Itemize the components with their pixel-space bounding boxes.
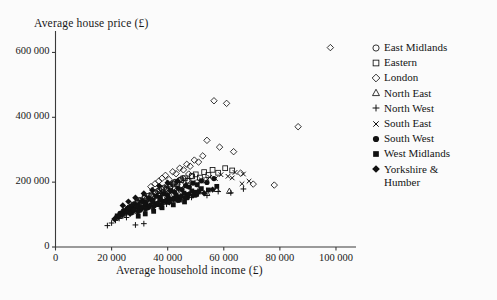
legend-item-north-west[interactable]: North West <box>368 101 494 116</box>
legend-label: Eastern <box>384 55 417 69</box>
data-point-filled-diamond <box>372 165 380 173</box>
data-point-open-diamond <box>271 182 277 188</box>
data-point-plus <box>373 105 380 112</box>
legend-marker-open-diamond-icon <box>368 70 384 85</box>
data-point-open-diamond <box>191 157 197 163</box>
data-point-open-diamond <box>204 137 210 143</box>
data-point-filled-square <box>143 212 148 217</box>
legend-item-east-midlands[interactable]: East Midlands <box>368 40 494 55</box>
legend-marker-cross-icon <box>368 116 384 131</box>
legend-label: East Midlands <box>384 40 447 54</box>
legend-item-london[interactable]: London <box>368 70 494 85</box>
data-point-filled-circle <box>373 136 379 142</box>
data-point-cross <box>230 176 235 181</box>
data-point-filled-square <box>214 184 219 189</box>
data-point-plus <box>215 189 221 195</box>
legend-label: North East <box>384 86 431 100</box>
legend-marker-plus-icon <box>368 101 384 116</box>
data-point-plus <box>105 223 111 229</box>
data-point-open-square <box>230 168 235 173</box>
legend-label: Yorkshire &Humber <box>384 162 438 189</box>
data-point-open-diamond <box>195 159 201 165</box>
legend-label: South West <box>384 131 434 145</box>
data-points-group <box>105 44 334 228</box>
data-point-filled-circle <box>204 180 209 185</box>
data-point-open-circle <box>373 44 379 50</box>
data-point-cross <box>247 179 252 184</box>
data-point-open-diamond <box>230 148 236 154</box>
legend-marker-open-circle-icon <box>368 40 384 55</box>
data-point-open-square <box>210 167 215 172</box>
legend-label: London <box>384 70 418 84</box>
data-point-open-diamond <box>200 153 206 159</box>
legend-label: West Midlands <box>384 146 450 160</box>
legend-item-west-midlands[interactable]: West Midlands <box>368 146 494 161</box>
data-point-filled-square <box>373 151 379 157</box>
tick-marks <box>52 52 336 250</box>
data-point-open-diamond <box>216 144 222 150</box>
axis-lines <box>56 31 357 247</box>
legend: East MidlandsEasternLondonNorth EastNort… <box>368 40 494 190</box>
legend-item-south-west[interactable]: South West <box>368 131 494 146</box>
x-tick-label: 100 000 <box>296 252 376 263</box>
data-point-open-diamond <box>295 123 301 129</box>
legend-marker-filled-circle-icon <box>368 131 384 146</box>
legend-marker-filled-diamond-icon <box>368 162 384 177</box>
legend-marker-filled-square-icon <box>368 146 384 161</box>
data-point-plus <box>241 186 247 192</box>
legend-marker-open-triangle-icon <box>368 86 384 101</box>
legend-item-eastern[interactable]: Eastern <box>368 55 494 70</box>
data-point-filled-circle <box>211 176 216 181</box>
data-point-plus <box>133 222 139 228</box>
y-tick-label: 200 000 <box>15 175 49 186</box>
data-point-open-square <box>216 170 221 175</box>
y-tick-label: 400 000 <box>15 110 49 121</box>
legend-marker-open-square-icon <box>368 55 384 70</box>
data-point-open-diamond <box>250 181 256 187</box>
y-tick-label: 0 <box>44 240 49 251</box>
legend-label: North West <box>384 101 434 115</box>
series-london <box>148 44 334 191</box>
data-point-open-diamond <box>327 44 333 50</box>
data-point-cross <box>240 181 245 186</box>
legend-label-continued: Humber <box>384 176 438 189</box>
scatter-plot-figure: Average house price (£) Average househol… <box>0 0 497 300</box>
legend-label: South East <box>384 116 431 130</box>
legend-item-yorkshire[interactable]: Yorkshire &Humber <box>368 162 494 190</box>
data-point-open-triangle <box>373 89 380 95</box>
data-point-cross <box>226 174 231 179</box>
data-point-filled-circle <box>199 178 204 183</box>
data-point-open-diamond <box>223 100 229 106</box>
y-tick-label: 600 000 <box>15 45 49 56</box>
legend-item-north-east[interactable]: North East <box>368 86 494 101</box>
data-point-open-diamond <box>211 98 217 104</box>
data-point-cross <box>373 121 378 126</box>
legend-item-south-east[interactable]: South East <box>368 116 494 131</box>
data-point-open-diamond <box>159 175 165 181</box>
data-point-open-square <box>223 166 228 171</box>
data-point-plus <box>228 190 234 196</box>
data-point-open-square <box>373 60 379 66</box>
data-point-open-diamond <box>372 74 380 82</box>
data-point-filled-square <box>136 214 141 219</box>
data-point-plus <box>141 221 147 227</box>
